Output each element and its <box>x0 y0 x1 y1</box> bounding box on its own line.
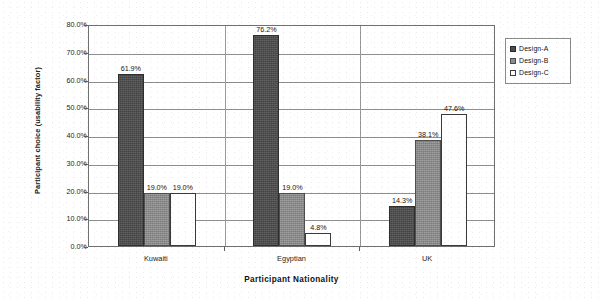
y-tick-label: 10.0% <box>43 215 87 223</box>
bar-group: 61.9%19.0%19.0% <box>89 26 225 246</box>
bar-group: 14.3%38.1%47.6% <box>360 26 496 246</box>
bar-group: 76.2%19.0%4.8% <box>225 26 361 246</box>
bar-value-label: 14.3% <box>392 196 412 205</box>
bar-wrap: 61.9% <box>118 26 144 246</box>
bar[interactable]: 19.0% <box>144 193 170 246</box>
bar-chart: Participant choice (usability factor) 0.… <box>0 0 599 302</box>
bar-value-label: 38.1% <box>418 130 438 139</box>
bar-wrap: 76.2% <box>253 26 279 246</box>
y-tick-label: 70.0% <box>43 49 87 57</box>
bar[interactable]: 19.0% <box>170 193 196 246</box>
x-category-label: UK <box>359 254 495 263</box>
bar-wrap: 14.3% <box>389 26 415 246</box>
bar[interactable]: 14.3% <box>389 206 415 246</box>
bar[interactable]: 76.2% <box>253 35 279 246</box>
bar-value-label: 76.2% <box>256 25 276 34</box>
bar-wrap: 19.0% <box>170 26 196 246</box>
y-tick-label: 30.0% <box>43 160 87 168</box>
x-tick-mark <box>359 247 360 251</box>
legend-label: Design-B <box>519 57 549 64</box>
bar-value-label: 19.0% <box>147 183 167 192</box>
legend: Design-A Design-B Design-C <box>505 38 571 84</box>
plot-area: 61.9%19.0%19.0%76.2%19.0%4.8%14.3%38.1%4… <box>88 25 495 247</box>
x-category-label: Egyptian <box>224 254 360 263</box>
y-tick-label: 80.0% <box>43 21 87 29</box>
y-tick-mark <box>84 247 88 248</box>
legend-item[interactable]: Design-B <box>510 55 566 66</box>
x-category-label: Kuwaiti <box>88 254 224 263</box>
y-tick-label: 50.0% <box>43 104 87 112</box>
y-axis-title: Participant choice (usability factor) <box>33 31 42 231</box>
bar[interactable]: 19.0% <box>279 193 305 246</box>
x-tick-mark <box>224 247 225 251</box>
bar-wrap: 4.8% <box>305 26 331 246</box>
bar-value-label: 4.8% <box>310 223 326 232</box>
bar-wrap: 47.6% <box>441 26 467 246</box>
x-axis-title: Participant Nationality <box>88 275 495 284</box>
legend-label: Design-C <box>519 69 549 76</box>
y-tick-label: 60.0% <box>43 77 87 85</box>
bar[interactable]: 4.8% <box>305 233 331 246</box>
bar-wrap: 38.1% <box>415 26 441 246</box>
y-tick-label: 0.0% <box>43 243 87 251</box>
bar[interactable]: 38.1% <box>415 140 441 246</box>
bar-value-label: 19.0% <box>282 183 302 192</box>
bar-wrap: 19.0% <box>279 26 305 246</box>
legend-swatch-design-b-icon <box>510 58 516 64</box>
bar-value-label: 19.0% <box>173 183 193 192</box>
y-tick-label: 20.0% <box>43 188 87 196</box>
legend-swatch-design-c-icon <box>510 70 516 76</box>
bar[interactable]: 47.6% <box>441 114 467 246</box>
bar-value-label: 47.6% <box>444 104 464 113</box>
bar[interactable]: 61.9% <box>118 74 144 246</box>
bar-value-label: 61.9% <box>121 64 141 73</box>
legend-label: Design-A <box>519 45 549 52</box>
legend-item[interactable]: Design-A <box>510 43 566 54</box>
legend-swatch-design-a-icon <box>510 46 516 52</box>
legend-item[interactable]: Design-C <box>510 67 566 78</box>
bar-wrap: 19.0% <box>144 26 170 246</box>
y-tick-label: 40.0% <box>43 132 87 140</box>
